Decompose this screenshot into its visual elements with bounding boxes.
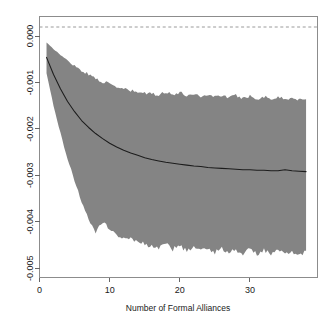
x-tick-label: 0 — [37, 285, 42, 295]
y-tick-label: -0.001 — [26, 70, 36, 96]
y-tick-label: 0.000 — [26, 25, 36, 48]
x-tick-label: 30 — [245, 285, 255, 295]
x-axis-title: Number of Formal Alliances — [126, 303, 230, 313]
y-tick-label: -0.003 — [26, 163, 36, 189]
x-tick-label: 10 — [105, 285, 115, 295]
coefficient-plot: 0102030 0.000-0.001-0.002-0.003-0.004-0.… — [0, 0, 332, 332]
y-tick-label: -0.002 — [26, 116, 36, 142]
y-tick-label: -0.004 — [26, 209, 36, 235]
y-tick-label: -0.005 — [26, 255, 36, 281]
chart-figure: 0102030 0.000-0.001-0.002-0.003-0.004-0.… — [0, 0, 332, 332]
x-tick-label: 20 — [175, 285, 185, 295]
